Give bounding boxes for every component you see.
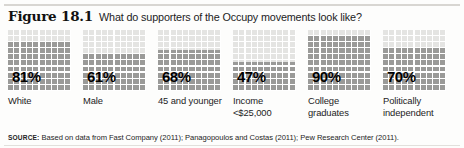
percentage-grid: 68% bbox=[158, 30, 221, 91]
category-label: White bbox=[8, 95, 74, 107]
category-label: Politically independent bbox=[383, 95, 449, 118]
figure-number: Figure 18.1 bbox=[8, 8, 93, 24]
percentage-label: 68% bbox=[162, 69, 191, 84]
percentage-grid: 61% bbox=[83, 30, 146, 91]
percentage-grid: 70% bbox=[383, 30, 446, 91]
percentage-label: 81% bbox=[12, 69, 41, 84]
chart-strip: 81%White61%Male68%45 and younger47%Incom… bbox=[8, 30, 458, 128]
source-text: Based on data from Fast Company (2011); … bbox=[39, 133, 398, 142]
percentage-grid: 47% bbox=[233, 30, 296, 91]
category-label: 45 and younger bbox=[158, 95, 224, 107]
footer-divider bbox=[4, 145, 460, 146]
percentage-grid: 81% bbox=[8, 30, 71, 91]
percentage-label: 70% bbox=[387, 69, 416, 84]
category-label: Male bbox=[83, 95, 149, 107]
chart-column: 70%Politically independent bbox=[383, 30, 446, 128]
source-keyword: SOURCE: bbox=[8, 134, 39, 141]
percentage-label: 90% bbox=[312, 69, 341, 84]
chart-column: 47%Income <$25,000 bbox=[233, 30, 296, 128]
percentage-label: 47% bbox=[237, 69, 266, 84]
header-divider bbox=[4, 4, 460, 6]
chart-column: 68%45 and younger bbox=[158, 30, 221, 128]
percentage-grid: 90% bbox=[308, 30, 371, 91]
figure-title: What do supporters of the Occupy movemen… bbox=[99, 11, 362, 23]
percentage-label: 61% bbox=[87, 69, 116, 84]
source-note: SOURCE: Based on data from Fast Company … bbox=[8, 133, 460, 142]
chart-column: 81%White bbox=[8, 30, 71, 128]
chart-column: 61%Male bbox=[83, 30, 146, 128]
figure-header: Figure 18.1 What do supporters of the Oc… bbox=[8, 8, 458, 26]
category-label: Income <$25,000 bbox=[233, 95, 299, 118]
chart-column: 90%College graduates bbox=[308, 30, 371, 128]
category-label: College graduates bbox=[308, 95, 374, 118]
